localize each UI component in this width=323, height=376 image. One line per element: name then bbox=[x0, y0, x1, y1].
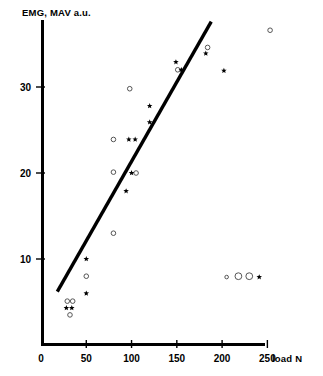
x-tick-label: 0 bbox=[38, 353, 44, 364]
y-tick-label: 30 bbox=[20, 82, 32, 93]
x-tick-label: 250 bbox=[259, 353, 276, 364]
emg-load-scatter-chart: EMG, MAV a.u. load N 102030 050100150200… bbox=[0, 0, 323, 376]
x-tick-label: 50 bbox=[81, 353, 93, 364]
x-tick-label: 200 bbox=[214, 353, 231, 364]
x-tick-label: 100 bbox=[123, 353, 140, 364]
y-tick-label: 20 bbox=[20, 168, 32, 179]
y-axis-title: EMG, MAV a.u. bbox=[22, 7, 91, 18]
x-axis-title: load N bbox=[272, 353, 302, 364]
y-tick-label: 10 bbox=[20, 254, 32, 265]
x-tick-label: 150 bbox=[168, 353, 185, 364]
chart-background bbox=[0, 0, 323, 376]
